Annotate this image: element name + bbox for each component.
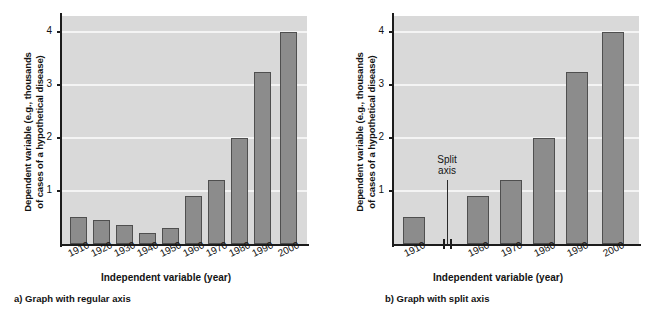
y-tick-1 [389,190,394,192]
y-axis-line-b [392,13,394,247]
caption-b: b) Graph with split axis [385,293,490,304]
bar-1970 [500,180,522,244]
y-tick-label-1: 1 [38,185,52,195]
y-tick-label-1: 1 [370,185,384,195]
split-axis-annotation-line1: Split [437,154,456,165]
figure-two-bar-charts: Dependent variable (e.g., thousands of c… [0,0,664,313]
bar-1980 [533,138,555,244]
y-tick-3 [57,84,62,86]
y-tick-label-2: 2 [38,132,52,142]
y-tick-label-3: 3 [38,79,52,89]
y-tick-label-3: 3 [370,79,384,89]
y-tick-1 [57,190,62,192]
split-axis-annotation: Split axis [424,154,470,176]
split-axis-leader-line [447,180,448,244]
split-axis-annotation-line2: axis [438,165,456,176]
y-tick-label-2: 2 [370,132,384,142]
bar-1960 [185,196,202,244]
y-tick-4 [57,31,62,33]
y-tick-2 [389,137,394,139]
y-tick-label-4: 4 [370,26,384,36]
bar-1980 [231,138,248,244]
panel-b-split-axis: Dependent variable (e.g., thousands of c… [332,0,664,313]
y-axis-line-a [60,13,62,247]
y-axis-title-b-line1: Dependent variable (e.g., thousands [354,52,365,212]
bar-1970 [208,180,225,244]
panel-a-regular-axis: Dependent variable (e.g., thousands of c… [0,0,332,313]
y-tick-3 [389,84,394,86]
gridline-4 [62,31,307,33]
split-axis-mark-left [443,239,445,249]
y-tick-label-4: 4 [38,26,52,36]
x-axis-title-a: Independent variable (year) [0,272,332,283]
split-axis-mark-right [450,239,452,249]
bar-2000 [280,32,297,244]
bar-1990 [566,72,588,244]
x-axis-title-b: Independent variable (year) [332,272,664,283]
bar-1990 [254,72,271,244]
bar-1960 [467,196,489,244]
y-tick-2 [57,137,62,139]
y-tick-4 [389,31,394,33]
bar-2000 [602,32,624,244]
y-axis-title-a-line1: Dependent variable (e.g., thousands [22,52,33,212]
caption-a: a) Graph with regular axis [14,293,131,304]
